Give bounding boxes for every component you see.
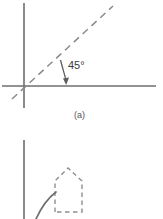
figure-container: 45° (a) [0,0,163,219]
panel-a-caption: (a) [74,111,85,120]
panel-b-group [24,140,82,219]
panel-b-dashed-pentagon-outline [55,168,82,212]
panel-a-group [2,3,156,108]
angle-label: 45° [68,60,85,71]
panel-a-angle-arrow-curve [61,60,66,80]
panel-a-dashed-45-degree-line [12,6,113,99]
panel-a-angle-arrow-head [63,78,69,85]
panel-b-solid-curve [36,192,56,219]
